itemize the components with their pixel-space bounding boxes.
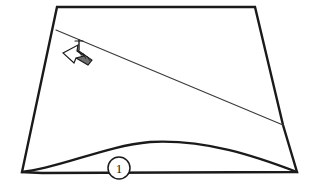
figure-container: 1: [0, 0, 315, 196]
panel-outline: [22, 7, 297, 173]
callout-label: 1: [116, 161, 123, 176]
technical-drawing-canvas: 1: [0, 0, 315, 196]
callout-1: 1: [108, 157, 130, 179]
